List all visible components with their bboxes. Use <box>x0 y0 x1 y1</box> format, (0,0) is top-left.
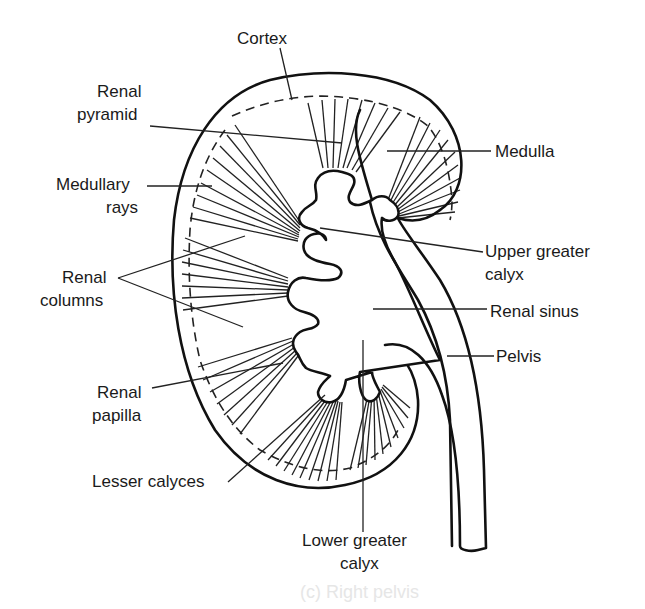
label-renal-pyramid-line2: pyramid <box>77 105 137 124</box>
label-medullary-rays-line2: rays <box>106 198 138 217</box>
label-renal-columns-line1: Renal <box>62 268 106 287</box>
label-renal-pyramid-line1: Renal <box>97 82 141 101</box>
label-lower-greater-calyx-line2: calyx <box>340 554 379 573</box>
label-lower-greater-calyx-line1: Lower greater <box>302 531 407 550</box>
label-pelvis: Pelvis <box>496 347 541 366</box>
label-renal-columns-line2: columns <box>40 291 103 310</box>
label-upper-greater-calyx-line2: calyx <box>485 265 524 284</box>
pelvis-outer-wall <box>385 218 486 551</box>
label-upper-greater-calyx-line1: Upper greater <box>485 242 590 261</box>
label-lesser-calyces: Lesser calyces <box>92 472 204 491</box>
bleed-through-text: (c) Right pelvis <box>300 582 419 602</box>
label-renal-sinus: Renal sinus <box>490 302 579 321</box>
label-medullary-rays-line1: Medullary <box>56 175 130 194</box>
calyx-system <box>288 171 440 403</box>
label-renal-papilla-line2: papilla <box>92 406 142 425</box>
label-renal-papilla-line1: Renal <box>97 383 141 402</box>
label-medulla: Medulla <box>495 142 555 161</box>
label-cortex: Cortex <box>237 29 288 48</box>
kidney-diagram: (c) Right pelvis <box>0 0 645 609</box>
